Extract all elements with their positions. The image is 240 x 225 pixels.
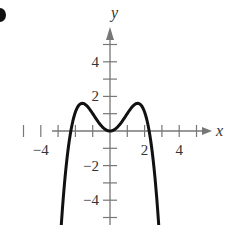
x-tick-label: −4 <box>33 142 49 158</box>
y-tick-label: −2 <box>83 158 99 174</box>
y-tick-label: −4 <box>83 192 99 208</box>
function-graph: −42442−2−4 x y <box>0 0 240 225</box>
y-axis-label: y <box>109 4 119 22</box>
y-tick-label: 4 <box>92 54 100 70</box>
y-tick-label: 2 <box>92 88 100 104</box>
x-axis-label: x <box>215 122 223 139</box>
x-tick-label: 4 <box>175 142 183 158</box>
x-tick-label: 2 <box>141 142 149 158</box>
